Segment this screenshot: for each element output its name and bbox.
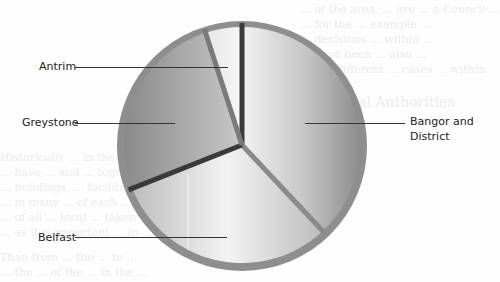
label-bangor-line2: District bbox=[410, 130, 450, 144]
label-antrim: Antrim bbox=[39, 60, 76, 74]
leader-line-antrim bbox=[75, 67, 228, 68]
leader-line-bangor bbox=[305, 123, 405, 124]
leader-line-greystone bbox=[75, 123, 175, 124]
leader-line-belfast bbox=[75, 237, 227, 238]
label-bangor-line1: Bangor and bbox=[410, 115, 474, 129]
label-belfast: Belfast bbox=[38, 231, 76, 245]
label-greystone: Greystone bbox=[22, 116, 79, 130]
